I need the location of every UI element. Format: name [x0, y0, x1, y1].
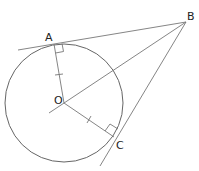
point-label-c: C — [116, 140, 124, 151]
line-bo — [49, 22, 186, 113]
point-label-a: A — [45, 32, 53, 43]
tangent-line-bc — [100, 22, 186, 166]
geometry-diagram — [0, 0, 199, 171]
point-label-o: O — [54, 95, 63, 106]
tangent-line-ba — [18, 22, 186, 50]
point-label-b: B — [187, 11, 195, 22]
tick-mark-oa — [55, 74, 63, 75]
